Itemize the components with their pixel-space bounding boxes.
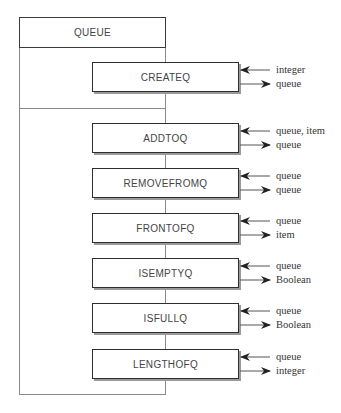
output-arrow-icon <box>240 186 271 194</box>
output-arrow-icon <box>240 231 271 239</box>
connector-line <box>165 379 166 395</box>
input-label: queue, item <box>276 125 325 137</box>
connector-line <box>165 198 166 213</box>
output-arrow-icon <box>240 367 271 375</box>
input-label: queue <box>276 260 301 272</box>
connector-line <box>165 153 166 168</box>
connector-line <box>165 92 166 123</box>
input-label: queue <box>276 351 301 363</box>
input-arrow-icon <box>240 217 270 225</box>
operation-name: REMOVEFROMQ <box>124 178 208 189</box>
input-arrow-icon <box>240 307 270 315</box>
operation-box-createq: CREATEQ <box>92 62 239 92</box>
io-arrows <box>240 303 276 333</box>
input-label: queue <box>276 305 301 317</box>
queue-module-title-text: QUEUE <box>74 27 111 38</box>
output-arrow-icon <box>240 80 271 88</box>
output-label: Boolean <box>276 274 311 286</box>
operation-box-lengthofq: LENGTHOFQ <box>92 349 239 379</box>
input-arrow-icon <box>240 262 270 270</box>
input-label: queue <box>276 170 301 182</box>
input-label: queue <box>276 215 301 227</box>
io-arrows <box>240 123 276 153</box>
io-arrows <box>240 168 276 198</box>
output-label: queue <box>276 78 301 90</box>
operation-box-removefromq: REMOVEFROMQ <box>92 168 239 198</box>
operation-name: LENGTHOFQ <box>133 359 198 370</box>
output-label: item <box>276 229 295 241</box>
io-arrows <box>240 62 276 92</box>
operation-name: ADDTOQ <box>143 133 187 144</box>
connector-line <box>165 288 166 303</box>
queue-module-title: QUEUE <box>19 17 166 48</box>
operation-box-addtoq: ADDTOQ <box>92 123 239 153</box>
input-arrow-icon <box>240 353 270 361</box>
connector-line <box>165 333 166 349</box>
output-arrow-icon <box>240 141 271 149</box>
input-arrow-icon <box>240 66 270 74</box>
input-arrow-icon <box>240 172 270 180</box>
module-divider-line <box>19 108 166 109</box>
operation-name: CREATEQ <box>141 72 191 83</box>
io-arrows <box>240 258 276 288</box>
output-label: integer <box>276 365 305 377</box>
output-arrow-icon <box>240 321 271 329</box>
operation-box-isemptyq: ISEMPTYQ <box>92 258 239 288</box>
operation-name: ISFULLQ <box>144 313 188 324</box>
output-label: queue <box>276 184 301 196</box>
input-label: integer <box>276 64 305 76</box>
output-label: Boolean <box>276 319 311 331</box>
operation-box-frontofq: FRONTOFQ <box>92 213 239 243</box>
output-arrow-icon <box>240 276 271 284</box>
input-arrow-icon <box>240 127 270 135</box>
operation-box-isfullq: ISFULLQ <box>92 303 239 333</box>
io-arrows <box>240 213 276 243</box>
connector-line <box>165 243 166 258</box>
connector-line <box>165 48 166 62</box>
operation-name: ISEMPTYQ <box>138 268 192 279</box>
output-label: queue <box>276 139 301 151</box>
io-arrows <box>240 349 276 379</box>
operation-name: FRONTOFQ <box>136 223 194 234</box>
